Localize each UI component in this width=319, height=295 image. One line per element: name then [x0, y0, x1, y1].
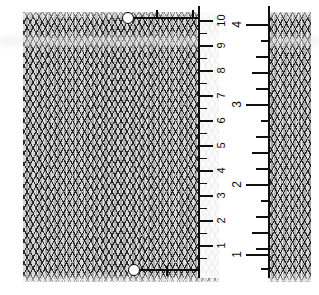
in-tick-4	[246, 24, 268, 26]
cm-tick-minor	[200, 233, 207, 235]
measurement-endcap-top-right	[192, 10, 194, 19]
cm-label-7: 7	[216, 89, 227, 103]
in-tick-sub	[252, 72, 268, 74]
cm-tick-10	[200, 20, 213, 22]
cm-label-8: 8	[216, 64, 227, 78]
cm-tick-minor	[200, 183, 207, 185]
in-label-3: 3	[232, 98, 243, 112]
cm-label-4: 4	[216, 164, 227, 178]
cm-tick-4	[200, 170, 213, 172]
in-tick-sub	[261, 120, 268, 122]
cm-label-6: 6	[216, 114, 227, 128]
cm-tick-minor	[200, 58, 207, 60]
cm-tick-2	[200, 220, 213, 222]
in-tick-1	[246, 254, 268, 256]
cm-tick-6	[200, 120, 213, 122]
cm-label-10: 10	[216, 14, 227, 28]
in-tick-sub	[261, 40, 268, 42]
measurement-endcap-bottom	[166, 266, 168, 276]
in-tick-sub	[261, 268, 268, 270]
cm-label-3: 3	[216, 189, 227, 203]
cm-tick-3	[200, 195, 213, 197]
cm-tick-minor	[200, 158, 207, 160]
cm-tick-7	[200, 95, 213, 97]
knitting-gauge-measurement-photo: 10 9 8 7 6 5 4 3 2 1 4 3 2 1	[0, 0, 319, 295]
in-tick-sub	[252, 152, 268, 154]
cm-tick-minor	[200, 258, 207, 260]
cm-tick-1	[200, 245, 213, 247]
cm-label-5: 5	[216, 139, 227, 153]
measurement-marker-bottom	[128, 264, 140, 276]
knit-fabric-main	[23, 12, 219, 282]
cm-tick-minor	[200, 33, 207, 35]
knit-fabric-edge	[268, 12, 311, 282]
cm-label-2: 2	[216, 214, 227, 228]
in-tick-sub	[256, 168, 268, 170]
measurement-line-bottom	[140, 269, 200, 271]
in-tick-sub	[256, 88, 268, 90]
cm-tick-5	[200, 145, 213, 147]
in-tick-2	[246, 184, 268, 186]
cm-label-1: 1	[216, 239, 227, 253]
in-tick-3	[246, 104, 268, 106]
in-tick-sub	[256, 216, 268, 218]
cm-tick-8	[200, 70, 213, 72]
in-tick-sub	[252, 232, 268, 234]
cm-tick-minor	[200, 83, 207, 85]
measurement-endcap-top-left	[156, 10, 158, 19]
cm-tick-minor	[200, 133, 207, 135]
in-label-1: 1	[232, 248, 243, 262]
in-label-2: 2	[232, 178, 243, 192]
measurement-marker-top	[122, 12, 134, 24]
measurement-line-top	[134, 17, 200, 19]
cm-tick-minor	[200, 108, 207, 110]
in-tick-sub	[256, 56, 268, 58]
cm-tick-9	[200, 45, 213, 47]
in-label-4: 4	[232, 18, 243, 32]
in-tick-sub	[256, 248, 268, 250]
in-tick-sub	[256, 136, 268, 138]
cm-tick-minor	[200, 208, 207, 210]
cm-label-9: 9	[216, 39, 227, 53]
transparent-measuring-ruler: 10 9 8 7 6 5 4 3 2 1 4 3 2 1	[198, 6, 270, 278]
in-tick-sub	[261, 200, 268, 202]
